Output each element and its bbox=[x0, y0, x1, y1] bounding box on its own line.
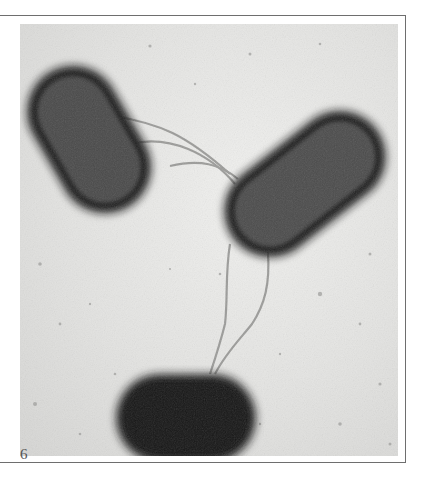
micrograph-drawing bbox=[20, 24, 398, 456]
micrograph-image bbox=[20, 24, 398, 456]
frame-top-rule bbox=[0, 15, 406, 16]
figure-panel-number: 6 bbox=[20, 446, 28, 463]
frame-right-rule bbox=[405, 15, 406, 463]
frame-bottom-rule bbox=[0, 462, 406, 463]
